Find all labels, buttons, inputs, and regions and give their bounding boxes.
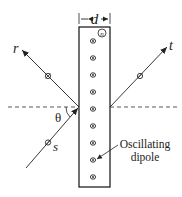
dipole [90,107,95,111]
dipole [90,158,95,162]
polarization-symbol-t [137,73,142,78]
index-label: n [100,30,104,38]
dipole [90,56,95,60]
polarization-symbol-r [45,73,50,78]
source-label: s [53,139,58,154]
dipole [90,175,95,179]
incident-ray [26,108,78,168]
reflected-label: r [13,41,19,56]
annotation-line-1: Oscillating [120,138,171,151]
dipole [90,124,95,128]
dipole [90,141,95,145]
polarization-symbol-s [45,140,50,145]
annotation-line-2: dipole [131,151,160,164]
dipole [90,90,95,94]
transmitted-label: t [169,38,174,53]
dipole [90,39,95,43]
dipole [90,73,95,77]
reflected-ray [22,50,79,107]
angle-label: θ [55,110,61,125]
transmitted-ray [110,47,167,107]
slab-dipole-diagram: d n s θ r t Oscillating dipole [0,0,182,197]
width-label: d [91,11,99,27]
dipole-column [90,39,95,179]
annotation-pointer [97,145,118,159]
angle-arc [66,107,70,117]
